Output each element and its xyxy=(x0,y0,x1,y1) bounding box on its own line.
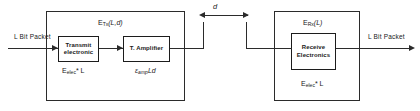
output-arrow-shaft xyxy=(336,48,410,49)
receive-electronics-cost-label: Eelec* L xyxy=(301,80,323,88)
transmit-electronics-cost-suffix: * L xyxy=(76,67,85,74)
output-packet-label: L Bit Packet xyxy=(368,33,405,40)
input-arrow-head xyxy=(52,45,58,51)
rx-antenna-feed-vertical xyxy=(246,22,247,49)
transmit-electronics-cost-label: Eelec* L xyxy=(62,67,84,75)
transmit-electronics-line1: Transmit xyxy=(66,42,92,50)
transmitter-energy-args: (L,d) xyxy=(108,19,122,26)
distance-label: d xyxy=(213,2,217,11)
distance-arrow-left-head xyxy=(199,12,205,18)
receiver-energy-label: ERx(L) xyxy=(303,19,322,27)
tx-amplifier-cost-suffix: Ld xyxy=(148,67,156,74)
receive-electronics-block: Receive Electronics xyxy=(291,33,336,70)
receive-electronics-cost-suffix: * L xyxy=(315,80,324,87)
receiver-energy-args: (L) xyxy=(314,19,323,26)
transmit-electronics-line2: electronic xyxy=(64,49,93,57)
receive-electronics-line2: Electronics xyxy=(297,52,330,60)
tx-antenna-feed-horizontal xyxy=(170,48,203,49)
transmit-electronics-cost-sub: elec xyxy=(67,69,76,75)
receive-electronics-line1: Receive xyxy=(302,44,325,52)
distance-arrow-right-head xyxy=(243,12,249,18)
input-packet-label: L Bit Packet xyxy=(14,33,51,40)
tx-amplifier-line1: T. Amplifier xyxy=(130,45,163,53)
tx-amplifier-cost-label: εampLd xyxy=(135,67,156,75)
receive-electronics-cost-sub: elec xyxy=(306,82,315,88)
rx-antenna-feed-horizontal xyxy=(246,48,292,49)
tx-antenna-feed-vertical xyxy=(203,22,204,49)
distance-arrow-shaft xyxy=(204,15,248,16)
tx-amplifier-cost-sub: amp xyxy=(138,69,148,75)
radio-energy-model-diagram: d ETx(L,d) Transmit electronic Eelec* L … xyxy=(0,0,420,111)
tx-amplifier-block: T. Amplifier xyxy=(123,36,170,62)
output-arrow-head xyxy=(409,45,415,51)
input-arrow-shaft xyxy=(8,48,58,49)
transmit-electronics-block: Transmit electronic xyxy=(58,36,99,62)
tx-internal-link-head xyxy=(117,45,123,51)
transmitter-energy-label: ETx(L,d) xyxy=(98,19,123,27)
